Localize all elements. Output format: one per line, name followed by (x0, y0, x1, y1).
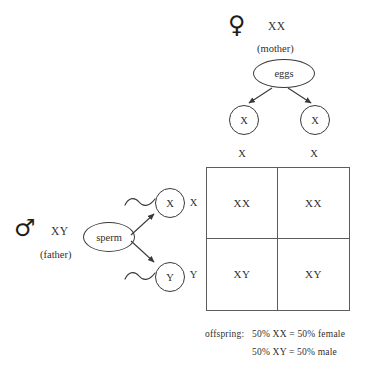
punnett-cell-value: XY (305, 269, 322, 280)
genetics-sex-determination-diagram: ♀ XX (mother) eggs X X ♂ XY (father) spe… (0, 0, 368, 371)
punnett-cell-value: XX (233, 198, 250, 209)
offspring-label: offspring: (205, 330, 244, 340)
punnett-cell-r2c1: XY (207, 239, 278, 310)
punnett-column-header-1: X (206, 149, 278, 160)
sperm-tail-x-icon (124, 192, 158, 212)
punnett-cell-r2c2: XY (278, 239, 349, 310)
sperm-tail-y-icon (124, 266, 158, 286)
offspring-line-2: 50% XY = 50% male (252, 348, 337, 358)
punnett-cell-value: XY (233, 269, 250, 280)
eggs-label: eggs (274, 68, 293, 79)
father-genotype-label: XY (51, 226, 69, 238)
egg-gamete-circle-right: X (300, 105, 330, 135)
sperm-gamete-circle-x: X (155, 188, 185, 218)
sperm-gamete-label-x: X (166, 198, 174, 209)
punnett-row-header-1: X (186, 167, 201, 239)
punnett-cell-r1c2: XX (278, 168, 349, 239)
male-symbol: ♂ (14, 216, 36, 240)
father-role-label: (father) (40, 250, 71, 261)
sperm-gamete-label-y: Y (166, 272, 174, 283)
female-symbol: ♀ (228, 13, 246, 37)
offspring-line-1: 50% XX = 50% female (252, 330, 345, 340)
egg-gamete-label-right: X (311, 115, 319, 126)
punnett-cell-r1c1: XX (207, 168, 278, 239)
sperm-label: sperm (96, 232, 122, 243)
punnett-row-header-2: Y (186, 239, 201, 311)
punnett-column-header-2: X (278, 149, 350, 160)
egg-gamete-label-left: X (240, 115, 248, 126)
punnett-cell-value: XX (305, 198, 322, 209)
eggs-ellipse: eggs (253, 59, 315, 88)
mother-role-label: (mother) (257, 44, 294, 55)
mother-genotype-label: XX (268, 21, 286, 33)
punnett-square: XX XX XY XY (206, 167, 350, 311)
egg-gamete-circle-left: X (229, 105, 259, 135)
sperm-gamete-circle-y: Y (155, 262, 185, 292)
